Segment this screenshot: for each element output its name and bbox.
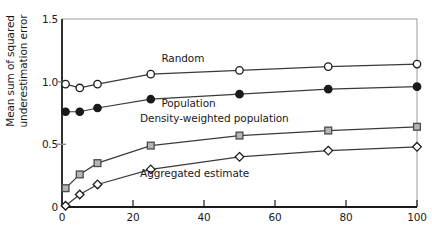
x-tick-label: 20 bbox=[127, 211, 140, 223]
series-label-aggregated-estimate: Aggregated estimate bbox=[140, 167, 249, 179]
data-point bbox=[76, 84, 83, 91]
data-point bbox=[76, 108, 83, 115]
data-point bbox=[62, 108, 69, 115]
series-population bbox=[62, 83, 421, 115]
series-layer bbox=[61, 60, 421, 210]
series-random bbox=[62, 60, 421, 91]
data-point bbox=[94, 160, 101, 167]
data-point bbox=[324, 146, 333, 155]
x-tick-label: 100 bbox=[407, 211, 426, 223]
x-tick-label: 0 bbox=[59, 211, 65, 223]
series-label-density-weighted-population: Density-weighted population bbox=[140, 112, 289, 124]
data-point bbox=[147, 70, 154, 77]
x-tick-label: 80 bbox=[340, 211, 353, 223]
data-point bbox=[325, 63, 332, 70]
data-point bbox=[413, 143, 422, 152]
data-point bbox=[414, 123, 421, 130]
data-point bbox=[236, 67, 243, 74]
x-tick-label: 40 bbox=[198, 211, 211, 223]
data-point bbox=[235, 153, 244, 162]
chart-figure: Mean sum of squared underestimation erro… bbox=[0, 0, 432, 240]
data-point bbox=[413, 83, 420, 90]
data-point bbox=[236, 132, 243, 139]
data-point bbox=[325, 127, 332, 134]
x-tick-label: 60 bbox=[269, 211, 282, 223]
data-point bbox=[93, 180, 102, 189]
data-point bbox=[147, 96, 154, 103]
data-point bbox=[62, 185, 69, 192]
data-point bbox=[236, 91, 243, 98]
data-point bbox=[76, 171, 83, 178]
x-axis-ticks bbox=[133, 200, 417, 207]
data-point bbox=[413, 60, 420, 67]
data-point bbox=[94, 80, 101, 87]
data-point bbox=[62, 80, 69, 87]
data-point bbox=[147, 142, 154, 149]
data-point bbox=[325, 85, 332, 92]
series-label-random: Random bbox=[161, 52, 204, 64]
series-label-population: Population bbox=[161, 97, 215, 109]
data-point bbox=[94, 104, 101, 111]
